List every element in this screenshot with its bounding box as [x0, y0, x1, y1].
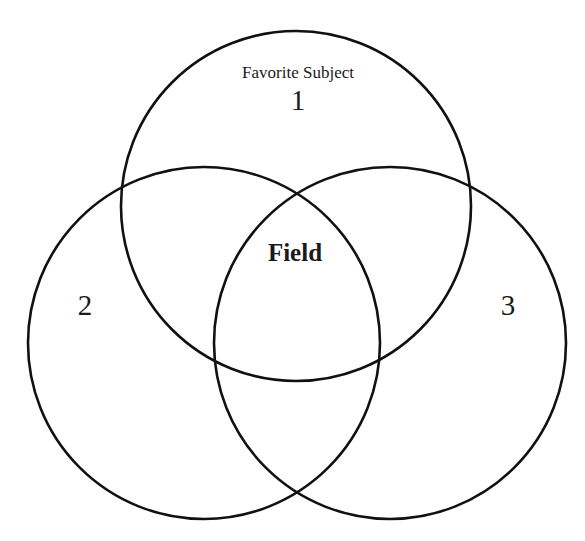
circle-2: [28, 167, 380, 519]
circle-3: [214, 167, 566, 519]
circle-2-label: 2: [78, 289, 93, 321]
venn-diagram: Favorite Subject 1 2 3 Field: [0, 0, 585, 541]
circle-1-caption: Favorite Subject: [242, 63, 354, 82]
circle-3-label: 3: [501, 289, 516, 321]
circle-1-label: 1: [291, 84, 306, 116]
center-label: Field: [268, 239, 322, 266]
